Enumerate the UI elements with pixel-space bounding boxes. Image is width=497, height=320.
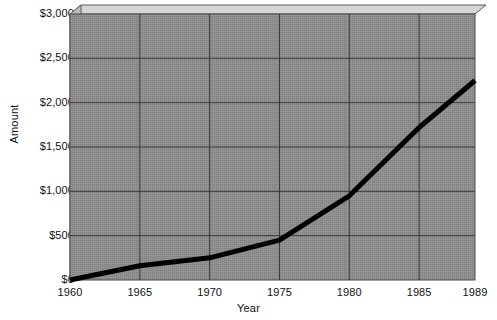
plot-top-face (70, 5, 486, 14)
x-axis-title: Year (0, 302, 497, 314)
y-axis-tick-label: $2,000 (10, 96, 74, 108)
y-axis-tick-label: $3,000 (10, 7, 74, 19)
y-axis-tick-label: $1,000 (10, 184, 74, 196)
y-axis-tick-label: $2,500 (10, 51, 74, 63)
y-axis-tick-labels: $0$500$1,000$1,500$2,000$2,500$3,000 (0, 0, 74, 320)
plot-svg (68, 4, 486, 288)
plot-area (68, 4, 486, 288)
y-axis-tick-label: $500 (10, 229, 74, 241)
y-axis-tick-label: $1,500 (10, 140, 74, 152)
line-chart: Amount $0$500$1,000$1,500$2,000$2,500$3,… (0, 0, 497, 320)
y-axis-tick-label: $0 (10, 273, 74, 285)
